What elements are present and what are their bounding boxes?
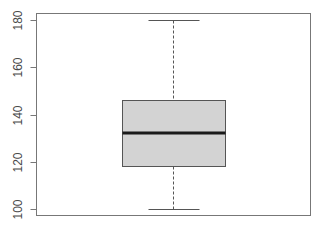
boxplot-chart: 100120140160180 (0, 0, 317, 227)
plot-area: 100120140160180 (0, 0, 317, 227)
y-axis: 100120140160180 (11, 10, 37, 219)
y-tick-label: 180 (11, 10, 25, 30)
y-tick-label: 160 (11, 57, 25, 77)
boxplot (123, 21, 226, 210)
y-tick-label: 100 (11, 199, 25, 219)
y-tick-label: 140 (11, 105, 25, 125)
y-tick-label: 120 (11, 152, 25, 172)
